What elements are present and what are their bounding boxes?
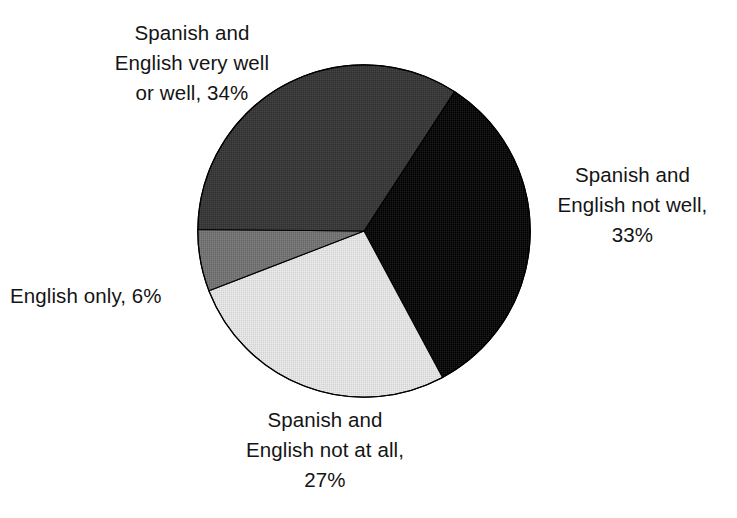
pie-label-english-only: English only, 6% xyxy=(10,281,218,311)
pie-chart xyxy=(197,64,531,398)
pie-chart-svg xyxy=(197,64,531,398)
pie-slices xyxy=(198,65,530,397)
chart-canvas: Spanish and English very well or well, 3… xyxy=(0,0,737,518)
pie-label-spanish-english-not-well: Spanish and English not well, 33% xyxy=(530,160,735,250)
pie-label-spanish-english-very-well-or-well: Spanish and English very well or well, 3… xyxy=(72,18,312,108)
pie-label-spanish-english-not-at-all: Spanish and English not at all, 27% xyxy=(200,405,450,495)
